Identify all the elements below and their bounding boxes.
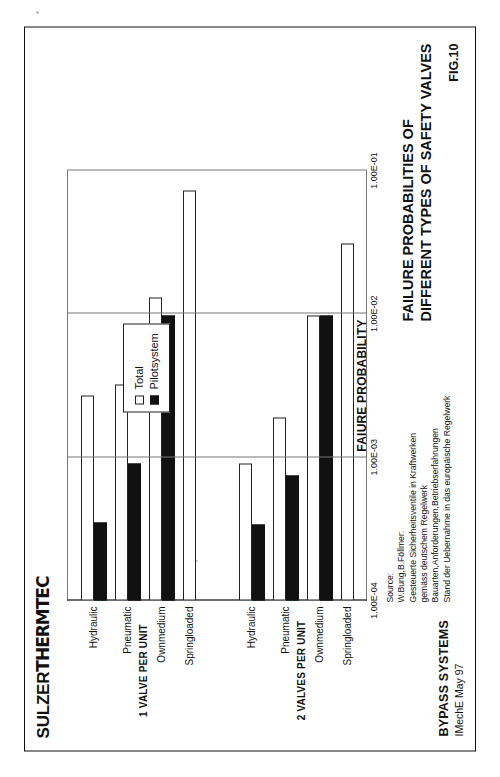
bar-rows <box>67 170 367 600</box>
bar-pilotsystem <box>94 522 107 600</box>
source-note: Source: W.Bung,B.Föllmer: Gesteuerte Sic… <box>385 395 453 602</box>
category-label: Ownmedium <box>314 606 325 692</box>
x-axis-title: FAIURE PROBABILITY <box>355 170 369 600</box>
x-tick-label: 1.00E-02 <box>369 295 379 332</box>
bar-total <box>273 417 286 600</box>
legend-label-pilotsystem: Pilotsystem <box>148 333 160 389</box>
category-label: Pneumatic <box>122 606 133 692</box>
figure-number: FIG.10 <box>447 43 461 81</box>
chart-plot-area: 1.00E-041.00E-031.00E-021.00E-01 Hydraul… <box>67 170 367 600</box>
legend-swatch-total-icon <box>135 395 144 404</box>
figure-title-line-1: FAILURE PROBABILITIES OF <box>399 43 417 321</box>
gridline-1.00E-03 <box>67 456 367 457</box>
x-tick-label: 1.00E-03 <box>369 438 379 475</box>
source-line-5: Stand der Uebernahme in das europäische … <box>442 395 453 602</box>
bar-pilotsystem <box>128 463 141 600</box>
bar-row <box>183 170 196 600</box>
source-line-1: W.Bung,B.Föllmer: <box>396 395 407 602</box>
document-sheet: SULZERTHERMTEC 1.00E-041.00E-031.00E-021… <box>24 26 476 751</box>
category-label: Springloaded <box>342 606 353 692</box>
source-line-3: gemäss deutschem Regelwerk <box>419 395 430 602</box>
footer-title: BYPASS SYSTEMS <box>437 620 451 736</box>
source-line-2: Gesteuerte Sicherheitsventile in Kraftwe… <box>408 395 419 602</box>
group-label: 2 VALVES PER UNIT <box>296 600 307 740</box>
source-line-4: Bauarten,Anforderungen,Betriebserfahrung… <box>430 395 441 602</box>
category-label: Pneumatic <box>280 606 291 692</box>
figure-title-line-2: DIFFERENT TYPES OF SAFETY VALVES <box>417 43 435 321</box>
bar-total <box>307 315 320 600</box>
chart-legend: Total Pilotsystem <box>123 323 170 412</box>
bar-row <box>81 170 107 600</box>
legend-item-pilotsystem: Pilotsystem <box>148 333 160 404</box>
gridline-1.00E-02 <box>67 312 367 313</box>
legend-swatch-pilotsystem-icon <box>150 395 159 404</box>
bar-pilotsystem <box>252 524 265 600</box>
bar-row <box>273 170 299 600</box>
x-tick-label: 1.00E-01 <box>369 152 379 189</box>
category-label: Ownmedium <box>156 606 167 692</box>
page-canvas: SULZERTHERMTEC 1.00E-041.00E-031.00E-021… <box>0 0 500 777</box>
sulzer-thermtec-logo: SULZERTHERMTEC <box>33 576 54 738</box>
footer-subtitle: IMechE May 97 <box>453 620 465 736</box>
bar-total <box>341 243 354 600</box>
figure-title: FAILURE PROBABILITIES OF DIFFERENT TYPES… <box>399 43 435 321</box>
bar-pilotsystem <box>320 315 333 600</box>
category-label: Hydraulic <box>88 606 99 692</box>
document-footer: BYPASS SYSTEMS IMechE May 97 <box>437 620 465 736</box>
x-tick-label: 1.00E-04 <box>369 582 379 619</box>
bar-total <box>115 384 128 600</box>
source-heading: Source: <box>385 395 396 602</box>
bar-total <box>183 190 196 600</box>
brand-sulzer: SULZER <box>34 671 53 738</box>
group-label: 1 VALVE PER UNIT <box>138 600 149 740</box>
brand-thermtec: THERMTEC <box>33 576 53 671</box>
category-label: Springloaded <box>184 606 195 692</box>
legend-label-total: Total <box>133 366 145 389</box>
bar-row <box>341 170 354 600</box>
bar-row <box>307 170 333 600</box>
category-label: Hydraulic <box>246 606 257 692</box>
bar-total <box>81 395 94 600</box>
bar-total <box>239 463 252 600</box>
gridline-1.00E-01 <box>67 169 367 170</box>
bar-row <box>239 170 265 600</box>
bar-pilotsystem <box>286 475 299 600</box>
legend-item-total: Total <box>133 333 145 404</box>
